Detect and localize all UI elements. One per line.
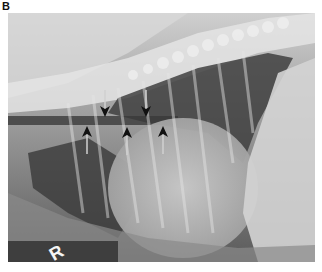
arrow-down-icon <box>141 90 151 118</box>
arrow-down-icon <box>100 90 110 118</box>
arrow-up-icon <box>158 126 168 154</box>
panel-label: B <box>2 0 10 12</box>
arrow-up-icon <box>82 126 92 154</box>
arrow-up-icon <box>122 127 132 155</box>
